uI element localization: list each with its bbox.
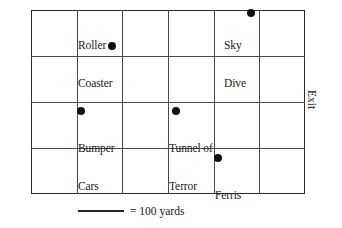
attraction-label-line: Cars [78, 180, 114, 193]
scale-legend: = 100 yards [78, 205, 184, 217]
attraction-label-line: Ferris [215, 189, 245, 202]
attraction-label-line: Bumper [78, 142, 114, 155]
attraction-label-sky-dive: Sky Dive [224, 14, 246, 114]
grid-horizontal-line [31, 148, 305, 149]
attraction-label-line: Tunnel of [169, 142, 213, 155]
attraction-label-line: Dive [224, 77, 246, 90]
attraction-label-line: Sky [224, 39, 246, 52]
amusement-park-map: Roller Coaster Sky Dive Bumper Cars Tunn… [0, 0, 342, 227]
scale-legend-text: = 100 yards [130, 205, 184, 217]
exit-label: Exit [306, 90, 318, 109]
location-dot-bumper-cars [77, 107, 85, 115]
attraction-label-line: Roller [78, 39, 112, 52]
attraction-label-ferris-wheel: Ferris Wheel [215, 164, 245, 227]
attraction-label-roller-coaster: Roller Coaster [78, 14, 112, 114]
grid-horizontal-line [31, 102, 305, 103]
attraction-label-bumper-cars: Bumper Cars [78, 117, 114, 217]
location-dot-ferris-wheel [214, 154, 222, 162]
scale-bar-icon [78, 210, 124, 211]
attraction-label-line: Coaster [78, 77, 112, 90]
location-dot-sky-dive [247, 9, 255, 17]
attraction-label-tunnel-of-terror: Tunnel of Terror [169, 117, 213, 217]
map-grid [31, 10, 305, 194]
attraction-label-line: Terror [169, 180, 213, 193]
attraction-label-line: Wheel [215, 227, 245, 228]
location-dot-tunnel-of-terror [172, 107, 180, 115]
grid-horizontal-line [31, 56, 305, 57]
